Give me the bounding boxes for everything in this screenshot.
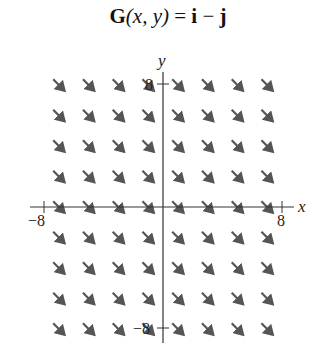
field-arrow [172,323,183,334]
field-arrow [232,171,243,182]
field-arrow [113,232,124,243]
field-arrow [142,293,153,304]
field-arrow [261,140,272,151]
field-arrow [232,140,243,151]
field-arrow [261,262,272,273]
field-arrow [172,232,183,243]
field-arrow [113,171,124,182]
field-arrow [172,79,183,90]
field-arrow [113,293,124,304]
field-arrow [261,79,272,90]
x-axis-label: x [297,197,306,216]
field-arrow [53,79,64,90]
field-arrow [53,140,64,151]
field-arrow [202,140,213,151]
field-arrow [202,323,213,334]
field-arrow [172,171,183,182]
field-arrow [83,262,94,273]
field-arrow [172,262,183,273]
field-arrow [261,232,272,243]
field-arrow [202,110,213,121]
field-arrow [261,323,272,334]
vector-field-plot: x y −8 8 8 −8 [0,0,336,343]
field-arrow [83,79,94,90]
field-arrow [53,171,64,182]
x-tick-label-neg8: −8 [28,212,45,229]
field-arrow [261,171,272,182]
y-tick-label-neg8: −8 [133,320,150,337]
field-arrow [202,171,213,182]
field-arrow [142,140,153,151]
field-arrow [232,232,243,243]
field-arrow [142,171,153,182]
field-arrow [142,232,153,243]
field-arrow [53,232,64,243]
field-arrow [232,79,243,90]
field-arrow [53,293,64,304]
field-arrow [83,232,94,243]
field-arrow [83,110,94,121]
field-arrow [172,140,183,151]
field-arrow [83,140,94,151]
field-arrow [172,110,183,121]
field-arrow [261,293,272,304]
field-arrow [202,262,213,273]
field-arrow [142,110,153,121]
field-arrow [83,293,94,304]
field-arrow [113,140,124,151]
field-arrow [202,293,213,304]
field-arrow [113,262,124,273]
field-arrow [142,262,153,273]
field-arrow [83,323,94,334]
y-tick-label-8: 8 [145,76,153,93]
field-arrow [202,79,213,90]
field-arrow [261,110,272,121]
field-arrow [232,323,243,334]
field-arrow [232,293,243,304]
field-arrow [202,232,213,243]
field-arrow [113,323,124,334]
field-arrow [83,171,94,182]
field-arrow [113,110,124,121]
field-arrow [53,262,64,273]
y-axis-label: y [156,51,166,70]
field-arrow [53,323,64,334]
x-tick-label-8: 8 [277,212,285,229]
field-arrow [232,262,243,273]
field-arrow [53,110,64,121]
field-arrow [113,79,124,90]
field-arrow [172,293,183,304]
field-arrow [232,110,243,121]
